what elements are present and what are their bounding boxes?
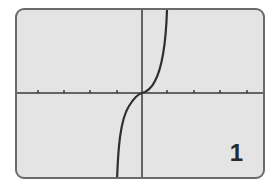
graph-screen: 1 [15, 8, 265, 179]
graph-number-label: 1 [230, 139, 243, 167]
graph-plot [17, 10, 265, 179]
